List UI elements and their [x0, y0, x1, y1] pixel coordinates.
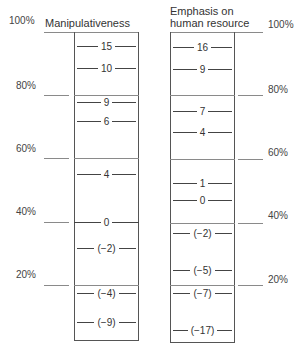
right-band-40 [170, 223, 235, 224]
left-marker-0: 0 [74, 216, 139, 228]
right-marker-neg5: (−5) [173, 264, 232, 276]
left-tick-20 [44, 285, 69, 286]
right-marker-16: 16 [173, 41, 232, 53]
left-marker-6: 6 [77, 115, 136, 127]
left-band-20 [74, 285, 139, 286]
left-pct-60: 60% [16, 143, 36, 154]
right-pct-80: 80% [268, 84, 288, 95]
left-pct-20: 20% [16, 269, 36, 280]
left-pct-40: 40% [16, 206, 36, 217]
right-scale-title-line1: Emphasis on [170, 5, 234, 17]
right-tick-80 [238, 95, 263, 96]
right-marker-neg17: (−17) [173, 324, 232, 336]
right-marker-0: 0 [173, 194, 232, 206]
left-marker-neg4: (−4) [77, 287, 136, 299]
left-marker-neg2: (−2) [77, 242, 136, 254]
right-marker-1: 1 [173, 177, 232, 189]
left-marker-15: 15 [77, 40, 136, 52]
right-band-80 [170, 95, 235, 96]
right-pct-60: 60% [268, 147, 288, 158]
left-tick-40 [44, 222, 69, 223]
left-pct-100: 100% [9, 15, 35, 26]
left-marker-4: 4 [77, 168, 136, 180]
left-marker-10: 10 [77, 62, 136, 74]
left-pct-80: 80% [16, 80, 36, 91]
left-tick-80 [44, 95, 69, 96]
left-scale-title: Manipulativeness [45, 17, 130, 29]
right-marker-neg2: (−2) [173, 227, 232, 239]
right-tick-40 [238, 223, 263, 224]
right-marker-9: 9 [173, 63, 232, 75]
left-tick-60 [44, 158, 69, 159]
left-band-60 [74, 158, 139, 159]
right-band-60 [170, 159, 235, 160]
right-tick-60 [238, 159, 263, 160]
right-scale-title-line2: human resource [170, 17, 250, 29]
left-marker-9: 9 [77, 96, 136, 108]
right-marker-neg7: (−7) [173, 287, 232, 299]
left-marker-neg9: (−9) [77, 316, 136, 328]
right-tick-20 [238, 285, 263, 286]
right-band-20 [170, 285, 235, 286]
right-marker-4: 4 [173, 126, 232, 138]
right-pct-100: 100% [268, 19, 294, 30]
right-marker-7: 7 [173, 105, 232, 117]
right-pct-40: 40% [268, 210, 288, 221]
right-pct-20: 20% [268, 274, 288, 285]
